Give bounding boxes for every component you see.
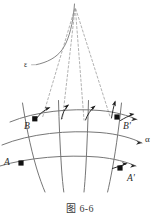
surface-arc-arrowheads-group xyxy=(130,117,142,168)
epsilon-curve-group xyxy=(32,4,75,65)
point-marker-Bp xyxy=(114,114,119,119)
dashed-ray-4 xyxy=(76,9,110,117)
point-marker-A xyxy=(18,160,23,165)
dashed-rays-group xyxy=(43,9,111,120)
surface-arc-middle xyxy=(2,132,142,145)
surface-arcs-group xyxy=(0,110,142,166)
tangent-arrowhead-1 xyxy=(45,107,51,111)
figure-caption: 图 6-6 xyxy=(0,200,160,215)
diagram-canvas xyxy=(0,0,160,220)
point-marker-B xyxy=(32,116,37,121)
figure-container: B B' A A' α ε 图 6-6 xyxy=(0,0,160,220)
dashed-ray-2 xyxy=(63,9,76,119)
dashed-ray-3 xyxy=(75,9,84,120)
point-marker-Ap xyxy=(117,165,122,170)
point-markers-group xyxy=(18,114,122,170)
tangent-arrowhead-2 xyxy=(64,104,69,110)
epsilon-curve xyxy=(37,4,75,65)
tangent-arrowhead-5 xyxy=(129,113,135,117)
